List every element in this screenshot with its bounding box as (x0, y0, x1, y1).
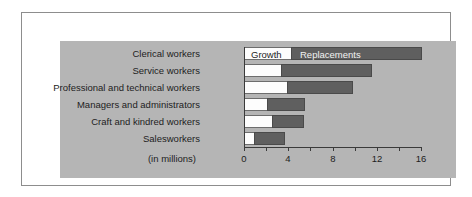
chart-row: Managers and administrators (60, 98, 456, 111)
bar-segment-replacements (281, 64, 372, 77)
bar-segment-growth (244, 98, 267, 111)
bar-segment-growth (244, 115, 272, 128)
bar-segment-growth (244, 81, 287, 94)
x-axis-tick (333, 147, 334, 151)
bar-segment-replacements (254, 132, 285, 145)
legend-label-growth: Growth (251, 48, 282, 61)
x-axis-tick (399, 147, 400, 151)
x-axis-tick (266, 147, 267, 151)
bar-segment-growth (244, 64, 281, 77)
x-axis-tick (310, 147, 311, 151)
chart-row: Salesworkers (60, 132, 456, 145)
category-label: Managers and administrators (77, 98, 200, 111)
chart-row: Craft and kindred workers (60, 115, 456, 128)
x-axis-tick-label: 16 (416, 153, 427, 164)
chart-row: Professional and technical workers (60, 81, 456, 94)
x-axis-caption: (in millions) (148, 153, 196, 164)
x-axis-tick-label: 8 (330, 153, 335, 164)
x-axis-tick (421, 147, 422, 151)
legend-label-replacements: Replacements (300, 48, 361, 61)
chart-row: Clerical workers Growth Replacements (60, 47, 456, 60)
x-axis-tick (377, 147, 378, 151)
bar-segment-growth: Growth (244, 47, 291, 60)
bar-segment-replacements (287, 81, 353, 94)
x-axis-tick-label: 12 (372, 153, 383, 164)
x-axis-tick (288, 147, 289, 151)
category-label: Craft and kindred workers (91, 115, 200, 128)
category-label: Service workers (132, 64, 200, 77)
category-label: Salesworkers (143, 132, 200, 145)
bar-segment-replacements (267, 98, 305, 111)
bar-segment-replacements: Replacements (291, 47, 422, 60)
chart-row: Service workers (60, 64, 456, 77)
bar-segment-replacements (272, 115, 304, 128)
x-axis-tick-label: 0 (241, 153, 246, 164)
bar-segment-growth (244, 132, 254, 145)
category-label: Clerical workers (132, 47, 200, 60)
y-axis-line (244, 47, 245, 147)
x-axis-tick-label: 4 (285, 153, 290, 164)
x-axis-tick (244, 147, 245, 151)
chart-plot-area: Clerical workers Growth Replacements Ser… (60, 41, 456, 178)
figure-frame: Clerical workers Growth Replacements Ser… (21, 12, 451, 186)
x-axis-tick (355, 147, 356, 151)
category-label: Professional and technical workers (53, 81, 200, 94)
